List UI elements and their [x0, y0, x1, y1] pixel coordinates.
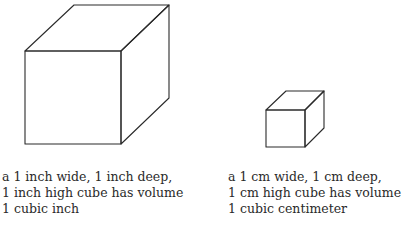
caption-line: 1 cubic centimeter	[228, 201, 401, 217]
inch-cube-caption: a 1 inch wide, 1 inch deep, 1 inch high …	[2, 169, 183, 217]
cm-cube-front-face	[266, 110, 305, 147]
inch-cube	[25, 5, 169, 144]
caption-line: 1 cubic inch	[2, 201, 183, 217]
inch-cube-side-face	[121, 5, 169, 144]
caption-line: a 1 inch wide, 1 inch deep,	[2, 169, 183, 185]
caption-line: 1 cm high cube has volume	[228, 185, 401, 201]
cm-cube-top-face	[266, 91, 324, 110]
inch-cube-top-face	[25, 5, 169, 51]
cm-cube-caption: a 1 cm wide, 1 cm deep, 1 cm high cube h…	[228, 169, 401, 217]
caption-line: a 1 cm wide, 1 cm deep,	[228, 169, 401, 185]
caption-line: 1 inch high cube has volume	[2, 185, 183, 201]
cm-cube	[266, 91, 324, 147]
cm-cube-side-face	[305, 91, 324, 147]
inch-cube-front-face	[25, 51, 121, 144]
